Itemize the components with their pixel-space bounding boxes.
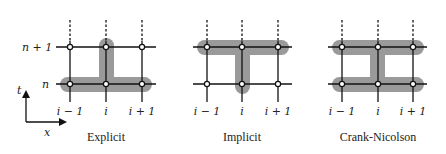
row-label-n: n bbox=[42, 78, 49, 91]
caption-implicit: Implicit bbox=[223, 130, 262, 144]
column-label-i-minus-1: i − 1 bbox=[194, 105, 221, 118]
panel-crank-nicolson: i − 1 i i + 1 Crank-Nicolson bbox=[328, 20, 427, 144]
stencil-diagram: t x n + 1 n i − 1 i i bbox=[0, 0, 446, 154]
column-label-i-plus-1: i + 1 bbox=[265, 105, 292, 118]
caption-crank-nicolson: Crank-Nicolson bbox=[340, 130, 417, 144]
column-label-i-plus-1: i + 1 bbox=[129, 105, 156, 118]
row-label-n-plus-1: n + 1 bbox=[22, 41, 52, 54]
column-label-i: i bbox=[104, 105, 108, 118]
panel-implicit: i − 1 i i + 1 Implicit bbox=[193, 20, 292, 144]
time-axis-label: t bbox=[17, 84, 22, 97]
column-label-i-minus-1: i − 1 bbox=[57, 105, 84, 118]
column-label-i-plus-1: i + 1 bbox=[400, 105, 427, 118]
dashed-extensions bbox=[342, 20, 413, 41]
column-label-i: i bbox=[240, 105, 244, 118]
caption-explicit: Explicit bbox=[87, 130, 126, 144]
column-label-i: i bbox=[376, 105, 380, 118]
space-axis-label: x bbox=[44, 126, 51, 139]
column-label-i-minus-1: i − 1 bbox=[329, 105, 356, 118]
panel-explicit: i − 1 i i + 1 Explicit bbox=[56, 20, 156, 144]
dashed-extensions bbox=[207, 20, 278, 41]
dashed-extensions bbox=[70, 20, 142, 41]
